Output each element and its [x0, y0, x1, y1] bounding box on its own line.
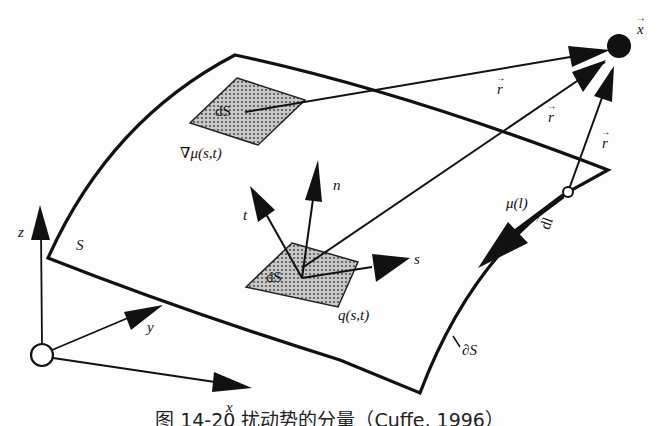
r-vectors: [245, 52, 612, 268]
label-tangent-s: s: [414, 252, 420, 267]
label-dS-lower: dS: [266, 270, 282, 285]
diagram-stage: x r r r dS ∇μ(s,t) dS n t s q(s,t) S ∂S …: [0, 0, 659, 426]
label-source-q: q(s,t): [338, 308, 369, 323]
point-x-dot: [607, 34, 631, 58]
doublet-point: [563, 187, 573, 197]
label-tangent-t: t: [243, 208, 247, 223]
normal-n-arrowhead: [305, 160, 322, 202]
label-normal-n: n: [333, 178, 341, 193]
label-dS-upper: dS: [215, 104, 231, 119]
label-r-3: r: [602, 136, 608, 151]
label-doublet-mu: μ(l): [506, 196, 528, 211]
label-grad-mu: ∇μ(s,t): [180, 146, 222, 161]
diagram-svg: [0, 0, 659, 426]
label-axis-y: y: [147, 320, 154, 335]
label-r-1: r: [497, 82, 503, 97]
axis-y-arrowhead: [124, 305, 163, 330]
origin-circle: [31, 344, 53, 366]
tangent-s-arrowhead: [372, 254, 410, 282]
label-surface-S: S: [76, 238, 84, 253]
figure-caption: 图 14-20 扰动势的分量（Cuffe, 1996）: [0, 405, 659, 426]
label-boundary-dS: ∂S: [462, 343, 477, 358]
label-r-2: r: [548, 110, 554, 125]
tangent-t-arrowhead: [250, 186, 275, 222]
axis-x-arrowhead: [212, 372, 252, 392]
label-point-x: x: [637, 22, 644, 37]
label-axis-z: z: [18, 225, 24, 240]
axis-z-arrowhead: [31, 205, 50, 240]
